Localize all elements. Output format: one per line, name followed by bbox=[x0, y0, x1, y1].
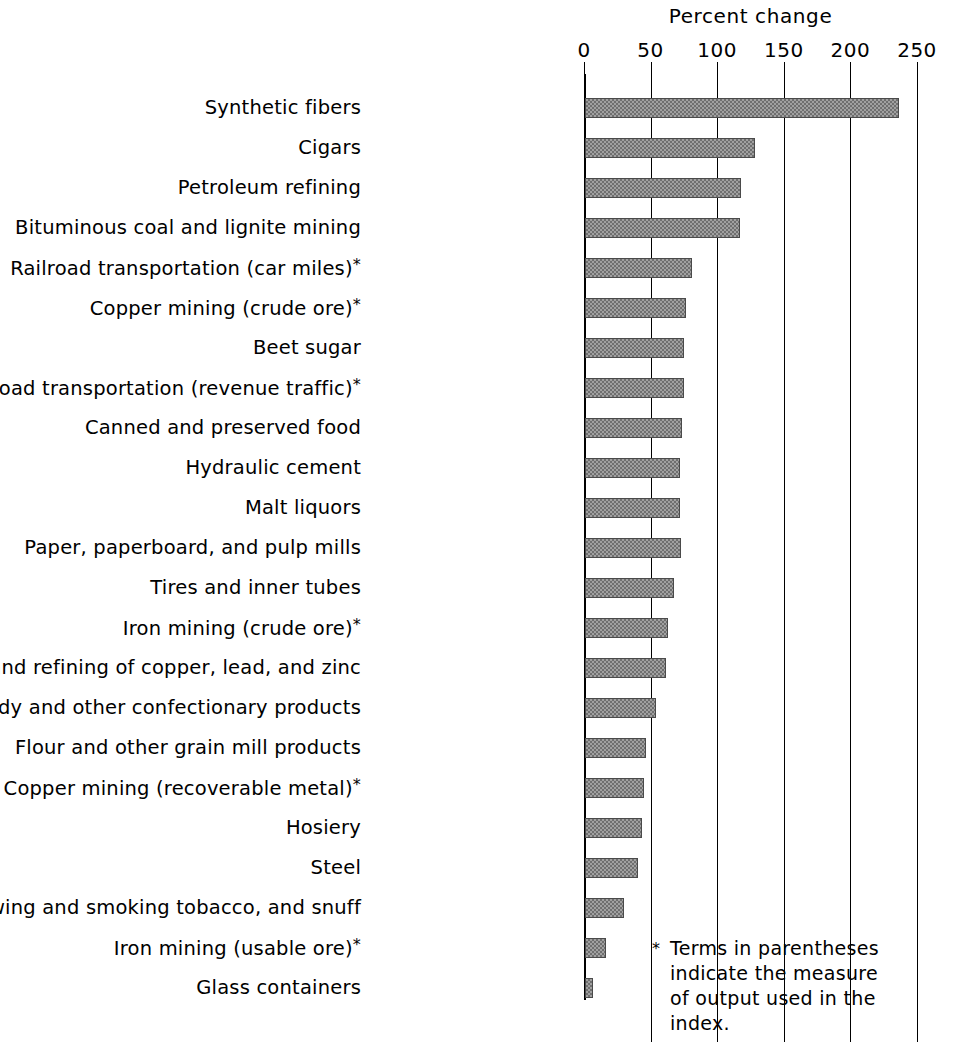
x-tick-mark bbox=[850, 62, 851, 74]
footnote-star-marker: * bbox=[652, 936, 660, 961]
category-label: Flour and other grain mill products bbox=[15, 738, 361, 758]
bar bbox=[585, 938, 606, 958]
footnote-marker-icon: * bbox=[353, 615, 361, 634]
x-tick-label: 250 bbox=[897, 38, 937, 62]
bar bbox=[585, 778, 644, 798]
x-tick-label: 50 bbox=[637, 38, 663, 62]
x-tick-mark bbox=[917, 62, 918, 74]
bar-row: Petroleum refining bbox=[0, 178, 953, 198]
x-tick-mark bbox=[651, 62, 652, 74]
bar bbox=[585, 898, 624, 918]
bar-row: Synthetic fibers bbox=[0, 98, 953, 118]
category-label: Synthetic fibers bbox=[205, 98, 361, 118]
footnote-marker-icon: * bbox=[353, 935, 361, 954]
category-label: Railroad transportation (car miles)* bbox=[10, 257, 361, 279]
category-label: Hydraulic cement bbox=[185, 458, 361, 478]
bar bbox=[585, 498, 680, 518]
category-label: Glass containers bbox=[196, 978, 361, 998]
percent-change-bar-chart: Percent change 050100150200250 Synthetic… bbox=[0, 0, 953, 1042]
bar bbox=[585, 858, 638, 878]
bar bbox=[585, 418, 682, 438]
bar bbox=[585, 818, 642, 838]
bar-row: Candy and other confectionary products bbox=[0, 698, 953, 718]
bar bbox=[585, 538, 681, 558]
bar-row: Copper mining (recoverable metal)* bbox=[0, 778, 953, 798]
bar-row: Malt liquors bbox=[0, 498, 953, 518]
category-label: Hosiery bbox=[286, 818, 361, 838]
footnote: * Terms in parenthesesindicate the measu… bbox=[652, 936, 952, 1036]
bar-row: Tires and inner tubes bbox=[0, 578, 953, 598]
bar bbox=[585, 178, 741, 198]
x-tick-label: 150 bbox=[764, 38, 804, 62]
category-label: Beet sugar bbox=[253, 338, 361, 358]
bar bbox=[585, 978, 593, 998]
category-label: Malt liquors bbox=[245, 498, 361, 518]
bar bbox=[585, 98, 899, 118]
category-label: Copper mining (recoverable metal)* bbox=[4, 777, 361, 799]
x-tick-mark bbox=[717, 62, 718, 74]
bar-row: Canned and preserved food bbox=[0, 418, 953, 438]
bar bbox=[585, 738, 646, 758]
footnote-text: Terms in parenthesesindicate the measure… bbox=[652, 936, 952, 1036]
x-tick-mark bbox=[584, 62, 585, 74]
category-label: Candy and other confectionary products bbox=[0, 698, 361, 718]
footnote-marker-icon: * bbox=[353, 255, 361, 274]
footnote-marker-icon: * bbox=[353, 295, 361, 314]
category-label: Petroleum refining bbox=[178, 178, 361, 198]
category-label: Canned and preserved food bbox=[85, 418, 361, 438]
bar bbox=[585, 618, 668, 638]
bar bbox=[585, 578, 674, 598]
x-tick-label: 0 bbox=[577, 38, 590, 62]
category-label: Smelting and refining of copper, lead, a… bbox=[0, 658, 361, 678]
category-label: Bituminous coal and lignite mining bbox=[15, 218, 361, 238]
footnote-marker-icon: * bbox=[353, 775, 361, 794]
bar-row: Steel bbox=[0, 858, 953, 878]
category-label: Copper mining (crude ore)* bbox=[90, 297, 361, 319]
category-label: Tires and inner tubes bbox=[150, 578, 361, 598]
bar bbox=[585, 698, 656, 718]
bar-row: Railroad transportation (car miles)* bbox=[0, 258, 953, 278]
x-tick-label: 200 bbox=[831, 38, 871, 62]
category-label: Cigarettes, chewing and smoking tobacco,… bbox=[0, 898, 361, 918]
bar bbox=[585, 218, 740, 238]
bar bbox=[585, 658, 666, 678]
bar-row: Hydraulic cement bbox=[0, 458, 953, 478]
axis-title: Percent change bbox=[584, 4, 917, 28]
bar-row: Copper mining (crude ore)* bbox=[0, 298, 953, 318]
x-tick-mark bbox=[784, 62, 785, 74]
bar-row: Beet sugar bbox=[0, 338, 953, 358]
bar-row: Cigars bbox=[0, 138, 953, 158]
bar-row: Hosiery bbox=[0, 818, 953, 838]
category-label: Iron mining (usable ore)* bbox=[114, 937, 361, 959]
bar-row: Flour and other grain mill products bbox=[0, 738, 953, 758]
bar-row: Iron mining (crude ore)* bbox=[0, 618, 953, 638]
category-label: Paper, paperboard, and pulp mills bbox=[24, 538, 361, 558]
bar-row: Railroad transportation (revenue traffic… bbox=[0, 378, 953, 398]
category-label: Cigars bbox=[298, 138, 361, 158]
category-label: Railroad transportation (revenue traffic… bbox=[0, 377, 361, 399]
bar-row: Smelting and refining of copper, lead, a… bbox=[0, 658, 953, 678]
footnote-marker-icon: * bbox=[353, 375, 361, 394]
bar bbox=[585, 338, 684, 358]
bar bbox=[585, 298, 686, 318]
bar bbox=[585, 138, 755, 158]
bar-row: Cigarettes, chewing and smoking tobacco,… bbox=[0, 898, 953, 918]
bar-row: Paper, paperboard, and pulp mills bbox=[0, 538, 953, 558]
x-tick-label: 100 bbox=[697, 38, 737, 62]
bar-row: Bituminous coal and lignite mining bbox=[0, 218, 953, 238]
bar bbox=[585, 458, 680, 478]
category-label: Iron mining (crude ore)* bbox=[123, 617, 361, 639]
category-label: Steel bbox=[311, 858, 361, 878]
bar bbox=[585, 258, 692, 278]
bar bbox=[585, 378, 684, 398]
